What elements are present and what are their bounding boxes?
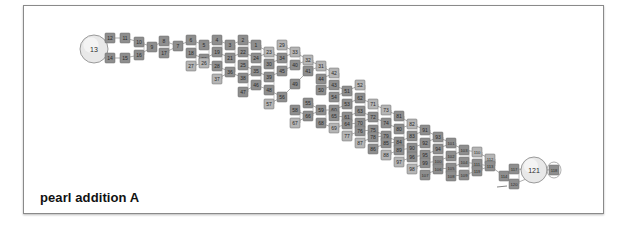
node-27: 27: [186, 61, 196, 71]
svg-text:87: 87: [357, 140, 363, 146]
svg-text:26: 26: [201, 60, 207, 66]
svg-text:29: 29: [279, 42, 285, 48]
node-46: 46: [251, 80, 261, 90]
node-98: 98: [407, 164, 417, 174]
svg-text:22: 22: [240, 49, 246, 55]
svg-text:98: 98: [409, 166, 415, 172]
node-102: 102: [446, 151, 456, 161]
svg-text:66: 66: [305, 113, 311, 119]
node-80: 80: [394, 124, 404, 134]
svg-text:30: 30: [266, 61, 272, 67]
node-86: 86: [368, 144, 378, 154]
svg-text:77: 77: [344, 133, 350, 139]
svg-text:43: 43: [331, 82, 337, 88]
svg-text:63: 63: [357, 108, 363, 114]
svg-text:117: 117: [511, 167, 518, 172]
svg-text:3: 3: [229, 42, 232, 48]
svg-text:95: 95: [422, 152, 428, 158]
svg-text:35: 35: [253, 68, 259, 74]
svg-text:6: 6: [190, 37, 193, 43]
svg-text:21: 21: [227, 55, 233, 61]
svg-text:72: 72: [370, 114, 376, 120]
node-5: 5: [199, 40, 209, 50]
node-47: 47: [238, 87, 248, 97]
svg-text:48: 48: [266, 87, 272, 93]
node-72: 72: [368, 112, 378, 122]
node-114: 114: [499, 171, 509, 181]
svg-text:103: 103: [461, 148, 469, 153]
node-119: 119: [472, 166, 482, 176]
node-16: 16: [134, 50, 144, 60]
svg-text:62: 62: [357, 95, 363, 101]
node-63: 63: [355, 106, 365, 116]
svg-text:53: 53: [344, 101, 350, 107]
diagram-caption: pearl addition A: [40, 190, 139, 205]
svg-text:41: 41: [305, 68, 311, 74]
node-104: 104: [459, 157, 469, 167]
node-32: 32: [303, 55, 313, 65]
svg-text:32: 32: [305, 57, 311, 63]
svg-text:52: 52: [357, 82, 363, 88]
svg-text:7: 7: [177, 43, 180, 49]
svg-text:4: 4: [216, 37, 219, 43]
nodes: 1312112141115101698177618275202641928373…: [80, 33, 561, 189]
node-17: 17: [159, 48, 169, 58]
node-65: 65: [329, 111, 339, 121]
node-35: 35: [251, 66, 261, 76]
node-89: 89: [394, 145, 404, 155]
node-33: 33: [290, 47, 300, 57]
node-11: 11: [120, 33, 130, 43]
node-106: 106: [433, 164, 443, 174]
node-41: 41: [303, 66, 313, 76]
node-37: 37: [212, 74, 222, 84]
node-55: 55: [303, 98, 313, 108]
svg-text:94: 94: [435, 146, 441, 152]
node-19: 19: [212, 47, 222, 57]
node-34: 34: [277, 53, 287, 63]
svg-text:10: 10: [136, 39, 142, 45]
node-3: 3: [225, 40, 235, 50]
node-50: 50: [316, 85, 326, 95]
node-101: 101: [446, 138, 456, 148]
node-15: 15: [120, 53, 130, 63]
node-78: 78: [368, 132, 378, 142]
svg-text:100: 100: [435, 159, 443, 164]
svg-text:12: 12: [107, 35, 113, 41]
svg-text:34: 34: [279, 55, 285, 61]
svg-text:88: 88: [383, 152, 389, 158]
svg-text:57: 57: [266, 101, 272, 107]
node-7: 7: [173, 41, 183, 51]
node-51: 51: [342, 86, 352, 96]
svg-text:24: 24: [253, 55, 259, 61]
node-96: 96: [407, 152, 417, 162]
svg-text:93: 93: [435, 134, 441, 140]
node-39: 39: [264, 72, 274, 82]
svg-text:64: 64: [344, 121, 350, 127]
svg-text:56: 56: [279, 94, 285, 100]
svg-text:89: 89: [396, 147, 402, 153]
svg-text:110: 110: [474, 150, 481, 155]
node-43: 43: [329, 80, 339, 90]
svg-text:71: 71: [370, 101, 376, 107]
svg-text:17: 17: [161, 50, 167, 56]
svg-text:36: 36: [227, 69, 233, 75]
node-94: 94: [433, 144, 443, 154]
svg-text:82: 82: [409, 121, 415, 127]
node-118: 118: [549, 165, 559, 175]
node-74: 74: [381, 118, 391, 128]
svg-text:86: 86: [370, 146, 376, 152]
node-113: 113: [485, 161, 495, 171]
svg-text:74: 74: [383, 120, 389, 126]
node-21: 21: [225, 53, 235, 63]
node-28: 28: [212, 61, 222, 71]
node-18: 18: [186, 48, 196, 58]
svg-text:9: 9: [151, 44, 154, 50]
node-30: 30: [264, 59, 274, 69]
node-76: 76: [355, 126, 365, 136]
svg-text:105: 105: [448, 166, 456, 171]
node-6: 6: [186, 35, 196, 45]
node-77: 77: [342, 131, 352, 141]
node-58: 58: [290, 105, 300, 115]
node-85: 85: [381, 138, 391, 148]
node-68: 68: [316, 118, 326, 128]
